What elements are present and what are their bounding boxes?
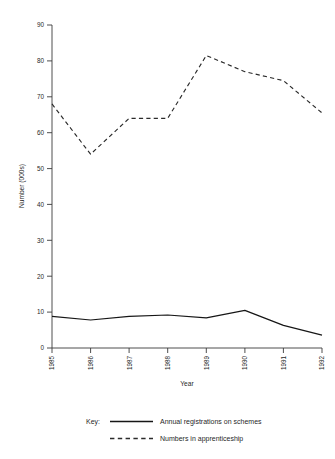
x-tick-label: 1990 [241,356,248,371]
x-tick-label: 1989 [203,356,210,371]
legend: Key: Annual registrations on schemes Num… [86,418,262,443]
y-tick-label: 30 [37,237,45,244]
x-axis-title: Year [180,380,194,387]
y-tick-label: 10 [37,308,45,315]
y-tick-label: 40 [37,201,45,208]
x-tick-label: 1992 [318,356,325,371]
x-tick-label: 1985 [48,356,55,371]
y-tick-label: 80 [37,57,45,64]
legend-label-registrations: Annual registrations on schemes [160,418,262,426]
series-line-registrations [52,310,322,335]
x-tick-label: 1991 [280,356,287,371]
chart-container: 0 10 20 30 40 50 60 70 80 90 1985 1986 1 [0,0,335,459]
y-tick-label: 60 [37,129,45,136]
x-tick-label: 1988 [164,356,171,371]
y-tick-marks [47,25,52,348]
y-tick-label: 50 [37,165,45,172]
line-chart: 0 10 20 30 40 50 60 70 80 90 1985 1986 1 [0,0,335,459]
y-axis-title: Number (000s) [18,164,26,208]
legend-prefix-label: Key: [86,418,100,426]
x-tick-label: 1987 [126,356,133,371]
x-tick-marks [52,348,322,353]
x-tick-labels: 1985 1986 1987 1988 1989 1990 1991 1992 [48,356,325,371]
series-line-apprenticeship [52,56,322,155]
y-tick-label: 0 [40,344,44,351]
x-tick-label: 1986 [87,356,94,371]
y-tick-label: 90 [37,21,45,28]
legend-label-apprenticeship: Numbers in apprenticeship [160,435,243,443]
y-tick-label: 70 [37,93,45,100]
y-tick-labels: 0 10 20 30 40 50 60 70 80 90 [37,21,45,351]
y-tick-label: 20 [37,273,45,280]
